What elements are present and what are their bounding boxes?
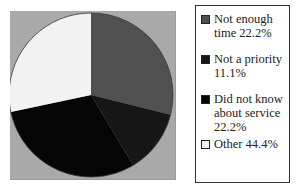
legend-swatch-icon <box>201 15 210 24</box>
legend-label: 11.1% <box>214 66 246 80</box>
legend-label: Did not know <box>214 92 283 106</box>
legend-item-other: Other 44.4% <box>201 137 285 151</box>
legend-swatch-icon <box>201 140 210 149</box>
legend-item-not-enough-time: Not enough time 22.2% <box>201 12 285 40</box>
legend-swatch-icon <box>201 95 210 104</box>
slice-other <box>10 13 91 112</box>
legend-label: Not a priority <box>214 52 282 66</box>
pie-chart: Not enough time 22.2% Not a priority 11.… <box>0 0 296 192</box>
legend-label: about service <box>214 106 280 120</box>
legend-item-not-a-priority: Not a priority 11.1% <box>201 52 285 80</box>
legend-item-did-not-know: Did not know about service 22.2% <box>201 92 285 134</box>
legend-label: Other 44.4% <box>214 137 278 151</box>
legend-label: Not enough <box>214 12 273 26</box>
legend-label: 22.2% <box>214 120 246 134</box>
pie <box>10 11 175 179</box>
legend-swatch-icon <box>201 55 210 64</box>
legend-label: time 22.2% <box>214 26 272 40</box>
legend: Not enough time 22.2% Not a priority 11.… <box>195 5 290 183</box>
plot-area <box>10 11 176 180</box>
